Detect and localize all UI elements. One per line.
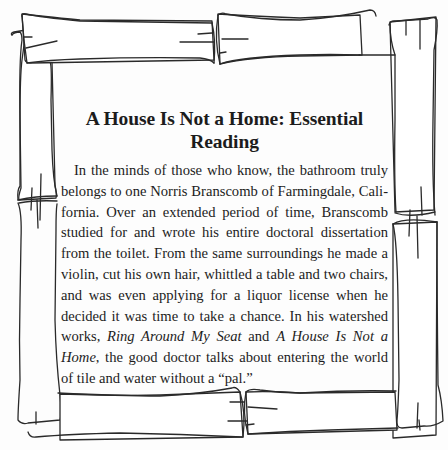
book-title-ring-around-my-seat: Ring Around My Seat: [107, 328, 242, 344]
paragraph-text-part2: , the good doctor talks about entering t…: [61, 349, 388, 386]
bottom-log-left: [28, 388, 254, 441]
right-log-lower: [393, 210, 443, 438]
article-title: A House Is Not a Home: Essential Reading: [61, 107, 388, 153]
top-log-left: [22, 14, 215, 63]
top-log-middle: [216, 10, 376, 64]
paragraph-text-between: and: [242, 328, 277, 344]
article-paragraph: In the minds of those who know, the bath…: [61, 160, 388, 389]
bottom-log-right: [244, 389, 398, 434]
left-log-lower: [18, 174, 61, 424]
article: A House Is Not a Home: Essential Reading…: [61, 107, 388, 389]
paragraph-text-part1: In the minds of those who know, the bath…: [61, 162, 388, 344]
